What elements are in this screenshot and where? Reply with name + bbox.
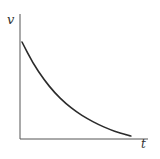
- x-axis-label: t: [141, 138, 146, 150]
- data-curve: [22, 42, 131, 136]
- y-axis-label: v: [7, 13, 14, 26]
- chart-plot-area: [0, 0, 160, 159]
- chart-figure: v t: [0, 0, 160, 159]
